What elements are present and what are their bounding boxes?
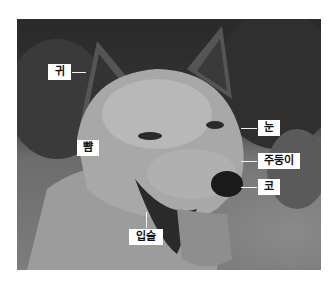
muzzle-leader-line xyxy=(241,161,257,162)
label-nose: 코 xyxy=(258,179,280,195)
nose-leader-line xyxy=(241,187,257,188)
lips-leader-line xyxy=(146,212,147,228)
label-ear: 귀 xyxy=(48,64,71,80)
ear-leader-line xyxy=(72,72,86,73)
eye-leader-line xyxy=(241,128,257,129)
dog-photo xyxy=(17,19,321,270)
dog-illustration xyxy=(17,19,321,270)
label-lips: 입술 xyxy=(129,229,163,245)
label-muzzle: 주둥이 xyxy=(258,153,300,169)
label-cheek: 뺨 xyxy=(77,140,99,156)
label-eye: 눈 xyxy=(258,120,280,136)
